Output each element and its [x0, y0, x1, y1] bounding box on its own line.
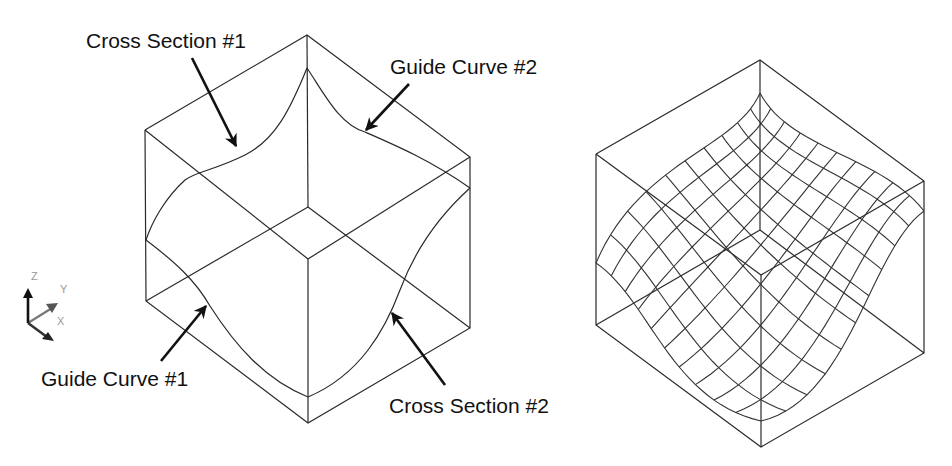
y-axis-line [28, 308, 52, 323]
label-cross-section-2: Cross Section #2 [389, 395, 549, 416]
mesh-line [611, 109, 770, 276]
mesh-line [760, 93, 924, 211]
mesh-line [714, 183, 893, 400]
axis-triad [23, 288, 58, 341]
axis-label-x: X [57, 316, 64, 327]
cross-section-2-curve [308, 188, 470, 397]
mesh-line [751, 109, 909, 226]
mesh-line [704, 148, 869, 296]
axis-label-z: Z [31, 271, 38, 282]
left-cube [145, 35, 470, 423]
mesh-line [761, 211, 924, 421]
mesh-line [666, 175, 842, 349]
z-axis-arrowhead [23, 288, 33, 298]
mesh-line [596, 263, 761, 421]
arrow-cross-section-2 [392, 313, 445, 385]
mesh-line [651, 143, 818, 329]
label-guide-curve-2: Guide Curve #2 [390, 56, 537, 77]
axis-label-y: Y [60, 284, 67, 295]
guide-curve-2-curve [307, 68, 470, 188]
label-cross-section-1: Cross Section #1 [86, 30, 246, 51]
arrow-cross-section-1 [192, 58, 236, 146]
label-guide-curve-1: Guide Curve #1 [41, 368, 188, 389]
cross-section-1-curve [146, 68, 307, 240]
mesh-line [736, 196, 910, 413]
arrow-guide-curve-1 [161, 306, 206, 361]
mesh-line [665, 152, 837, 348]
mesh-line [638, 133, 800, 310]
right-cube [596, 60, 924, 447]
mesh-line [738, 123, 895, 246]
mesh-line [695, 172, 874, 385]
mesh-line [611, 235, 786, 411]
x-axis-line [28, 323, 47, 337]
mesh-line [685, 161, 856, 323]
